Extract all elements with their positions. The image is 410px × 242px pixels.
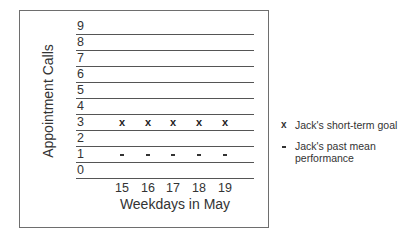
dash-marker-icon (282, 146, 286, 148)
legend-label-goal: Jack's short-term goal (295, 119, 397, 131)
y-tick-label: 6 (77, 68, 84, 81)
past-mean-marker (197, 154, 201, 156)
y-tick-label: 7 (77, 52, 84, 65)
x-tick-label: 16 (138, 181, 158, 195)
y-tick-label: 5 (77, 84, 84, 97)
x-marker-icon: x (281, 119, 287, 131)
legend-item-past: Jack's past mean performance (281, 140, 397, 164)
y-tick-label: 8 (77, 36, 84, 49)
gridline (76, 82, 254, 83)
legend-item-goal: x Jack's short-term goal (281, 119, 397, 131)
x-axis-label: Weekdays in May (100, 196, 250, 212)
gridline (76, 162, 254, 163)
x-tick-label: 15 (112, 181, 132, 195)
y-tick-label: 4 (77, 100, 84, 113)
x-tick-label: 17 (163, 181, 183, 195)
legend: x Jack's short-term goal Jack's past mea… (281, 119, 397, 173)
y-tick-label: 0 (77, 164, 84, 177)
y-axis-label: Appointment Calls (40, 36, 56, 166)
past-mean-marker (120, 154, 124, 156)
past-mean-marker (146, 154, 150, 156)
past-mean-marker (223, 154, 227, 156)
past-mean-marker (171, 154, 175, 156)
goal-marker: x (193, 117, 205, 128)
gridline (76, 66, 254, 67)
gridline (76, 178, 254, 179)
gridline (76, 146, 254, 147)
x-tick-label: 19 (215, 181, 235, 195)
y-tick-label: 1 (77, 148, 84, 161)
legend-label-past-line2: performance (295, 152, 397, 164)
x-tick-label: 18 (189, 181, 209, 195)
y-tick-label: 9 (77, 20, 84, 33)
gridline (76, 50, 254, 51)
gridline (76, 34, 254, 35)
legend-label-past-line1: Jack's past mean (295, 140, 397, 152)
goal-marker: x (167, 117, 179, 128)
y-tick-label: 2 (77, 132, 84, 145)
gridline (76, 98, 254, 99)
gridline (76, 130, 254, 131)
y-tick-label: 3 (77, 116, 84, 129)
goal-marker: x (116, 117, 128, 128)
gridline (76, 114, 254, 115)
goal-marker: x (219, 117, 231, 128)
goal-marker: x (142, 117, 154, 128)
